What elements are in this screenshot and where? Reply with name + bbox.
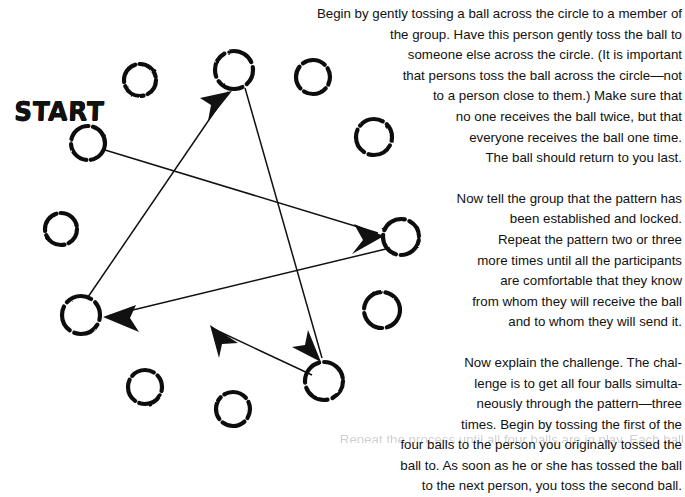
- paragraph-2-line-7: and to whom they will send it.: [276, 312, 682, 333]
- paragraph-3-line-3: neously through the pattern—three: [276, 394, 682, 415]
- paragraph-1: Begin by gently tossing a ball across th…: [276, 4, 682, 169]
- paragraph-3: Now explain the challenge. The chal-leng…: [276, 353, 682, 497]
- paragraph-3-line-2: lenge is to get all four balls simulta-: [276, 374, 682, 395]
- paragraph-3-line-1: Now explain the challenge. The chal-: [276, 353, 682, 374]
- circle-left-lower: [62, 296, 100, 334]
- circle-upper-left: [124, 64, 156, 96]
- arrowhead-into-left-lower: [103, 305, 139, 332]
- paragraph-3-line-7: to the next person, you toss the second …: [276, 476, 682, 497]
- paragraph-2-line-5: are comfortable that they know: [276, 271, 682, 292]
- paragraph-1-line-8: The ball should return to you last.: [276, 148, 682, 169]
- paragraph-1-line-2: the group. Have this person gently toss …: [276, 25, 682, 46]
- start-label: START: [13, 96, 104, 126]
- paragraph-1-line-7: everyone receives the ball one time.: [276, 128, 682, 149]
- paragraph-2-line-1: Now tell the group that the pattern has: [276, 189, 682, 210]
- circle-top: [215, 51, 253, 89]
- paragraph-2: Now tell the group that the pattern hasb…: [276, 189, 682, 333]
- paragraph-2-line-4: more times until all the participants: [276, 251, 682, 272]
- paragraph-1-line-5: to a person close to them.) Make sure th…: [276, 86, 682, 107]
- paragraph-1-line-3: someone else across the circle. (It is i…: [276, 45, 682, 66]
- circle-bottom-left: [128, 370, 162, 404]
- paragraph-2-line-2: been established and locked.: [276, 209, 682, 230]
- paragraph-1-line-1: Begin by gently tossing a ball across th…: [276, 4, 682, 25]
- instruction-text-column: Begin by gently tossing a ball across th…: [276, 4, 682, 497]
- circle-bottom-middle: [216, 392, 250, 426]
- circle-left-upper: [45, 213, 77, 245]
- line-left-lower-to-top: [88, 92, 228, 297]
- paragraph-1-line-4: that persons toss the ball across the ci…: [276, 66, 682, 87]
- paragraph-2-line-3: Repeat the pattern two or three: [276, 230, 682, 251]
- arrowhead-into-top: [200, 91, 232, 121]
- paragraph-2-line-6: from whom they will receive the ball: [276, 292, 682, 313]
- paragraph-1-line-6: no one receives the ball twice, but that: [276, 107, 682, 128]
- paragraph-3-line-6: ball to. As soon as he or she has tossed…: [276, 456, 682, 477]
- circle-start: [71, 126, 105, 160]
- cut-off-text-line: Repeat the process until all four balls …: [232, 433, 684, 443]
- arrowhead-into-bottom-middle: [210, 325, 238, 358]
